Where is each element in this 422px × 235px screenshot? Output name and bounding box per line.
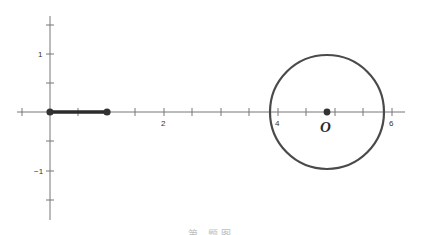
circle-center-point [324, 109, 331, 116]
segment-endpoint-start [46, 108, 53, 115]
y-tick-label-minus-1: −1 [34, 167, 44, 176]
coordinate-diagram: 2 4 6 1 −1 O [0, 0, 422, 235]
circle-center-label: O [320, 119, 331, 135]
y-tick-label-1: 1 [38, 50, 43, 59]
x-tick-label-6: 6 [389, 119, 394, 128]
x-tick-label-4: 4 [275, 119, 280, 128]
segment-endpoint-end [103, 108, 110, 115]
figure-caption: 第 题图 [0, 226, 422, 235]
x-tick-label-2: 2 [161, 119, 166, 128]
